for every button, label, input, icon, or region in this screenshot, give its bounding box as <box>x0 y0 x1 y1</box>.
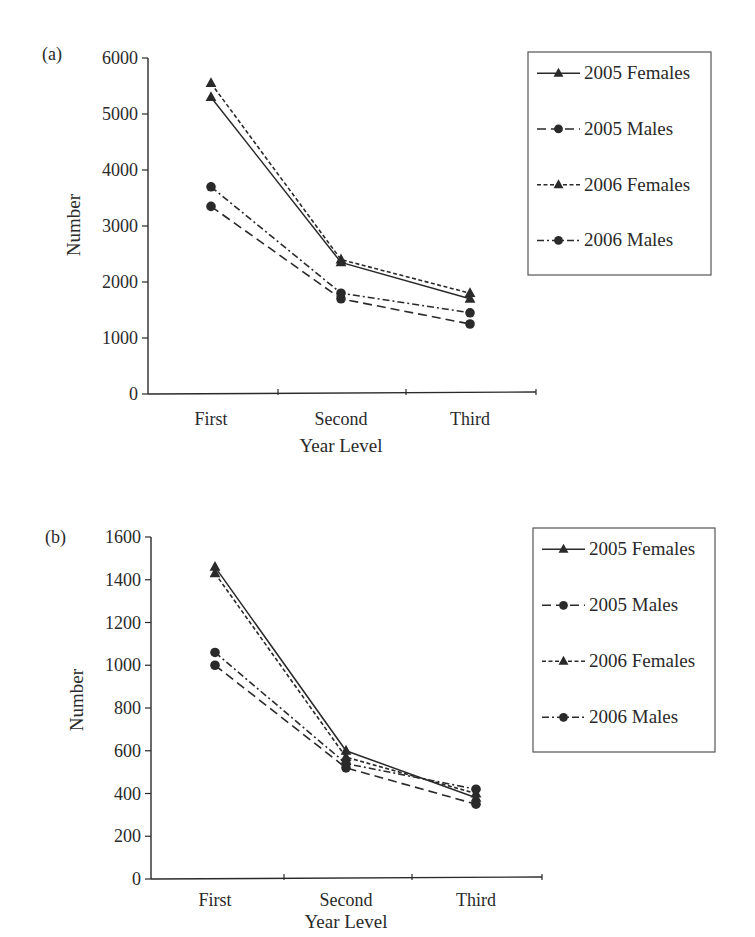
circle-marker <box>559 601 568 610</box>
y-tick-label: 1000 <box>102 328 138 348</box>
legend-label: 2005 Females <box>584 62 690 83</box>
chart-panel-b: (b)02004006008001000120014001600FirstSec… <box>45 527 715 932</box>
circle-marker <box>210 660 220 670</box>
y-axis-title: Number <box>66 668 87 731</box>
x-axis <box>148 392 536 394</box>
y-tick-label: 5000 <box>102 104 138 124</box>
x-tick-label: Second <box>320 890 373 910</box>
y-tick-label: 400 <box>114 784 141 804</box>
x-axis-title: Year Level <box>299 435 382 456</box>
triangle-marker <box>465 287 476 297</box>
circle-marker <box>206 182 216 192</box>
series-line <box>211 97 470 299</box>
triangle-marker <box>206 77 217 87</box>
y-axis-title: Number <box>63 193 84 256</box>
x-tick-label: Second <box>315 409 368 429</box>
x-tick-label: First <box>198 890 231 910</box>
panel-label: (a) <box>42 44 62 65</box>
legend: 2005 Females2005 Males2006 Females2006 M… <box>533 528 715 752</box>
x-axis <box>151 877 542 879</box>
circle-marker <box>471 799 481 809</box>
figure: (a)0100020003000400050006000FirstSecondT… <box>0 0 755 937</box>
circle-marker <box>336 288 346 298</box>
x-tick-label: Third <box>456 890 496 910</box>
y-tick-label: 1200 <box>105 613 141 633</box>
chart-panel-a: (a)0100020003000400050006000FirstSecondT… <box>42 44 711 456</box>
series-2006-males <box>206 182 475 318</box>
legend-label: 2005 Males <box>589 594 678 615</box>
circle-marker <box>465 308 475 318</box>
legend-label: 2005 Males <box>584 118 673 139</box>
y-tick-label: 1400 <box>105 570 141 590</box>
y-tick-label: 600 <box>114 741 141 761</box>
legend-label: 2006 Males <box>584 229 673 250</box>
legend-label: 2006 Females <box>584 174 690 195</box>
y-tick-label: 0 <box>129 384 138 404</box>
panel-label: (b) <box>45 527 66 548</box>
y-tick-label: 1600 <box>105 527 141 547</box>
circle-marker <box>554 236 563 245</box>
legend-label: 2005 Females <box>589 538 695 559</box>
series-2005-females <box>206 91 476 303</box>
circle-marker <box>471 784 481 794</box>
x-tick-label: First <box>194 409 227 429</box>
legend: 2005 Females2005 Males2006 Females2006 M… <box>528 52 711 275</box>
y-tick-label: 4000 <box>102 160 138 180</box>
triangle-marker <box>206 91 217 101</box>
legend-label: 2006 Males <box>589 706 678 727</box>
circle-marker <box>554 125 563 134</box>
x-tick-label: Third <box>450 409 490 429</box>
circle-marker <box>559 713 568 722</box>
circle-marker <box>210 648 220 658</box>
y-tick-label: 200 <box>114 826 141 846</box>
y-tick-label: 0 <box>132 869 141 889</box>
y-tick-label: 6000 <box>102 48 138 68</box>
y-tick-label: 2000 <box>102 272 138 292</box>
y-tick-label: 1000 <box>105 655 141 675</box>
circle-marker <box>465 319 475 329</box>
circle-marker <box>341 759 351 769</box>
y-tick-label: 800 <box>114 698 141 718</box>
legend-label: 2006 Females <box>589 650 695 671</box>
y-tick-label: 3000 <box>102 216 138 236</box>
circle-marker <box>206 202 216 212</box>
x-axis-title: Year Level <box>304 911 387 932</box>
